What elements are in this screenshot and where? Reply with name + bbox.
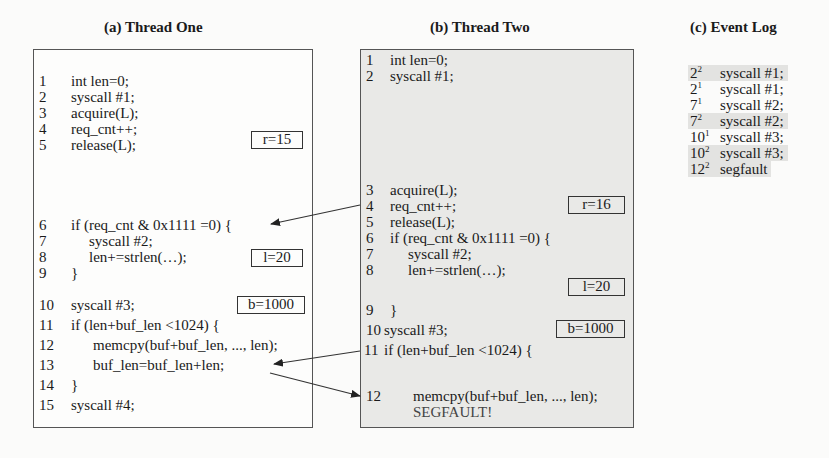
event-log-entry: 101syscall #3; xyxy=(688,129,788,145)
event-log-entry: 71syscall #2; xyxy=(688,97,788,113)
event-log-entry: 102syscall #3; xyxy=(688,145,788,161)
arrow-t2-11-to-t1-12 xyxy=(274,351,360,364)
event-log-entry: 21syscall #1; xyxy=(688,81,788,97)
event-log-entry: 122segfault xyxy=(688,161,771,177)
event-log-entry: 22syscall #1; xyxy=(688,65,788,81)
arrow-t1-13-to-t2-12 xyxy=(270,373,360,396)
arrow-t2-4-to-t1-6 xyxy=(271,205,360,224)
event-log-entry: 72syscall #2; xyxy=(688,113,788,129)
